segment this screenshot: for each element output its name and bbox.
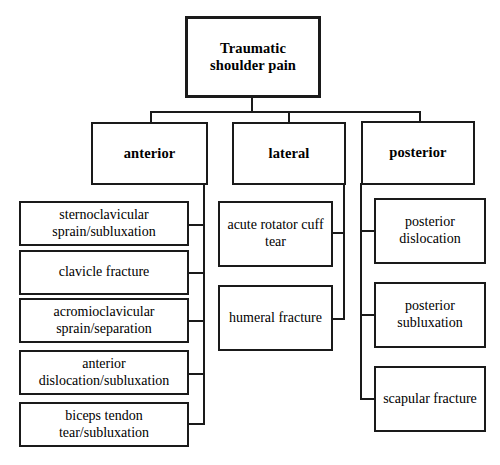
connector-posterior-stub-3 (360, 398, 375, 400)
node-leaf-anterior-dislocation-subluxation: anterior dislocation/subluxation (19, 350, 189, 395)
connector-root-stem (251, 96, 253, 112)
connector-lateral-spine (343, 183, 345, 320)
connector-lateral-stub-2 (331, 318, 345, 320)
node-leaf-acromioclavicular-sprain-separation: acromioclavicular sprain/separation (19, 298, 189, 343)
node-leaf-label: sternoclavicular sprain/subluxation (48, 207, 159, 240)
node-leaf-scapular-fracture: scapular fracture (374, 366, 486, 432)
connector-anterior-spine (203, 183, 205, 425)
node-leaf-humeral-fracture: humeral fracture (218, 285, 333, 351)
node-leaf-label: posterior subluxation (393, 298, 466, 331)
connector-lateral-stub-1 (331, 232, 345, 234)
node-leaf-posterior-dislocation: posterior dislocation (374, 198, 486, 264)
connector-anterior-stub-4 (188, 373, 205, 375)
node-root-traumatic-shoulder-pain: Traumatic shoulder pain (185, 16, 321, 98)
node-leaf-label: anterior dislocation/subluxation (35, 356, 174, 389)
node-leaf-biceps-tendon-tear-subluxation: biceps tendon tear/subluxation (19, 402, 189, 447)
node-leaf-label: clavicle fracture (55, 264, 154, 281)
connector-root-bus (150, 111, 421, 113)
node-leaf-posterior-subluxation: posterior subluxation (374, 282, 486, 348)
node-leaf-label: acromioclavicular sprain/separation (49, 304, 158, 337)
diagram-canvas: Traumatic shoulder pain anterior sternoc… (0, 0, 500, 465)
node-leaf-clavicle-fracture: clavicle fracture (19, 250, 189, 295)
connector-anterior-stub-5 (188, 423, 205, 425)
connector-posterior-spine (360, 183, 362, 400)
node-category-lateral: lateral (232, 122, 346, 185)
node-category-anterior-label: anterior (120, 145, 180, 162)
node-category-posterior: posterior (361, 121, 475, 185)
connector-anterior-stub-1 (188, 224, 205, 226)
node-leaf-label: humeral fracture (225, 310, 326, 327)
node-leaf-acute-rotator-cuff-tear: acute rotator cuff tear (218, 201, 333, 267)
node-category-lateral-label: lateral (265, 145, 314, 162)
connector-posterior-stub-2 (360, 314, 375, 316)
node-category-posterior-label: posterior (385, 144, 450, 161)
connector-anterior-stub-3 (188, 320, 205, 322)
node-leaf-label: scapular fracture (379, 391, 481, 408)
node-leaf-label: biceps tendon tear/subluxation (55, 408, 153, 441)
connector-anterior-stub-2 (188, 272, 205, 274)
node-root-label: Traumatic shoulder pain (206, 40, 300, 74)
node-category-anterior: anterior (91, 122, 208, 185)
node-leaf-sternoclavicular-sprain-subluxation: sternoclavicular sprain/subluxation (19, 201, 189, 246)
node-leaf-label: acute rotator cuff tear (223, 217, 327, 250)
connector-posterior-stub-1 (360, 230, 375, 232)
node-leaf-label: posterior dislocation (395, 214, 464, 247)
